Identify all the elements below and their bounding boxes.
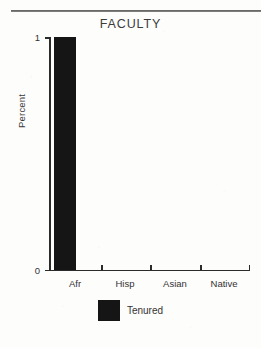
bar-tenured-afr xyxy=(54,37,76,270)
x-tick-mark-asian xyxy=(200,265,202,271)
x-tick-mark-hisp xyxy=(150,265,152,271)
y-tick-label-top: 1 xyxy=(35,32,40,43)
x-tick-label-native: Native xyxy=(211,278,238,289)
plot-area: 1 0 Afr Hisp Asian Native xyxy=(49,37,250,271)
y-axis-line xyxy=(49,37,51,271)
y-tick-mark-bottom: 0 xyxy=(45,270,50,272)
chart-page: FACULTY Percent 1 0 Afr Hisp Asian Nativ… xyxy=(0,0,261,348)
chart-title: FACULTY xyxy=(0,17,261,31)
x-tick-label-asian: Asian xyxy=(163,278,187,289)
x-tick-label-hisp: Hisp xyxy=(115,278,134,289)
y-tick-mark-top: 1 xyxy=(45,37,50,39)
x-tick-mark-native xyxy=(249,265,251,271)
y-tick-label-bottom: 0 xyxy=(35,264,40,275)
x-tick-mark-afr xyxy=(101,265,103,271)
y-axis-title: Percent xyxy=(16,58,27,128)
legend-label-tenured: Tenured xyxy=(127,305,163,316)
chart-legend: Tenured xyxy=(0,300,261,321)
header-divider xyxy=(11,10,261,12)
x-tick-label-afr: Afr xyxy=(69,278,81,289)
legend-swatch-tenured xyxy=(98,300,120,321)
